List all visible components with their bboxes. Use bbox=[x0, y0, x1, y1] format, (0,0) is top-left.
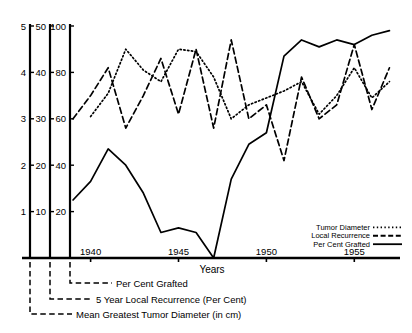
x-axis-title: Years bbox=[199, 264, 224, 275]
annotation-label-0: Per Cent Grafted bbox=[116, 278, 188, 289]
y-tick-label: 50 bbox=[35, 21, 46, 32]
y-tick-label: 4 bbox=[21, 67, 26, 78]
y-tick-label: 60 bbox=[55, 113, 66, 124]
y-tick-label: 10 bbox=[35, 206, 46, 217]
x-tick-label: 1950 bbox=[256, 246, 277, 257]
figure: 12345102030405020406080100 1940194519501… bbox=[0, 0, 412, 333]
x-tick-label: 1940 bbox=[80, 246, 101, 257]
annotation-bracket-0 bbox=[70, 262, 112, 283]
series-line-tumor-diameter bbox=[91, 49, 390, 119]
y-tick-label: 40 bbox=[55, 160, 66, 171]
annotation-label-2: Mean Greatest Tumor Diameter (in cm) bbox=[76, 309, 241, 320]
y-tick-label: 20 bbox=[55, 206, 66, 217]
y-tick-label: 80 bbox=[55, 67, 66, 78]
annotation-bracket-1 bbox=[50, 262, 92, 299]
chart-legend: Tumor DiameterLocal RecurrencePer Cent G… bbox=[311, 223, 402, 249]
series-line-local-recurrence bbox=[73, 40, 389, 161]
x-tick-label: 1945 bbox=[168, 246, 189, 257]
annotation-label-1: 5 Year Local Recurrence (Per Cent) bbox=[96, 294, 247, 305]
y-tick-label: 2 bbox=[21, 160, 26, 171]
annotation-bracket-2 bbox=[30, 262, 72, 314]
y-tick-label: 3 bbox=[21, 113, 26, 124]
chart-canvas: 12345102030405020406080100 1940194519501… bbox=[0, 0, 412, 333]
legend-label-2: Per Cent Grafted bbox=[313, 240, 370, 249]
y-tick-label: 100 bbox=[50, 21, 66, 32]
y-tick-label: 20 bbox=[35, 160, 46, 171]
y-tick-label: 40 bbox=[35, 67, 46, 78]
y-axes-group: 12345102030405020406080100 bbox=[21, 21, 74, 258]
y-tick-label: 30 bbox=[35, 113, 46, 124]
y-tick-label: 5 bbox=[21, 21, 26, 32]
y-tick-label: 1 bbox=[21, 206, 26, 217]
